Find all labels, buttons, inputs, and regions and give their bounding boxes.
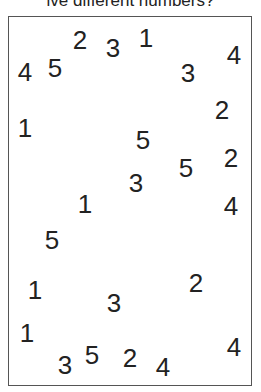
digit: 5	[85, 342, 99, 368]
digit: 5	[136, 127, 150, 153]
digit: 1	[78, 191, 92, 217]
digit: 3	[107, 290, 121, 316]
question-text: ive different numbers?	[0, 0, 261, 11]
digit: 3	[58, 352, 72, 378]
digit: 4	[18, 59, 32, 85]
digit: 2	[189, 270, 203, 296]
digit: 2	[215, 97, 229, 123]
number-frame	[8, 16, 252, 386]
digit: 5	[48, 55, 62, 81]
digit: 3	[181, 60, 195, 86]
digit: 5	[45, 227, 59, 253]
digit: 3	[106, 35, 120, 61]
digit: 1	[20, 320, 34, 346]
digit: 1	[139, 25, 153, 51]
digit: 4	[224, 193, 238, 219]
digit: 2	[123, 345, 137, 371]
digit: 5	[179, 155, 193, 181]
digit: 4	[227, 334, 241, 360]
digit: 1	[18, 115, 32, 141]
digit: 4	[156, 354, 170, 380]
digit: 4	[227, 42, 241, 68]
digit: 1	[28, 277, 42, 303]
digit: 2	[224, 145, 238, 171]
digit: 2	[73, 27, 87, 53]
digit: 3	[129, 170, 143, 196]
